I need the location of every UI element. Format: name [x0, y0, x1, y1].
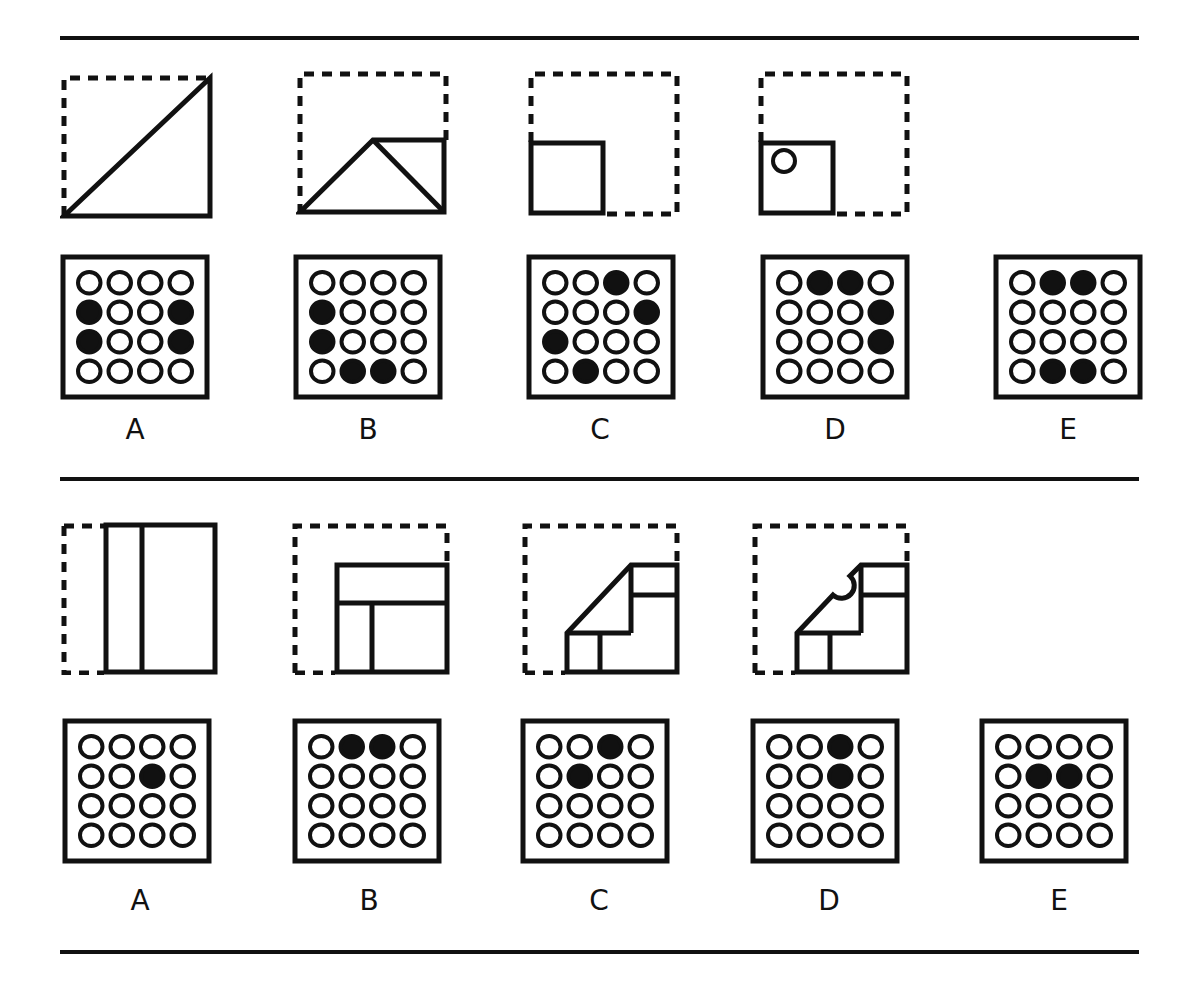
hole-empty-icon: [172, 736, 195, 758]
hole-empty-icon: [768, 795, 791, 817]
hole-filled-icon: [870, 331, 893, 353]
hole-filled-icon: [1072, 361, 1095, 383]
problem-1-option-d-label: D: [805, 413, 865, 446]
hole-empty-icon: [575, 331, 598, 353]
hole-empty-icon: [575, 272, 598, 294]
hole-empty-icon: [630, 736, 653, 758]
hole-empty-icon: [371, 766, 394, 788]
hole-empty-icon: [141, 795, 164, 817]
hole-empty-icon: [342, 302, 365, 324]
hole-empty-icon: [997, 825, 1020, 847]
problem-1-fold-step-1: [60, 72, 215, 220]
problem-2-fold-step-2: [291, 520, 451, 675]
hole-empty-icon: [839, 302, 862, 324]
hole-empty-icon: [809, 331, 832, 353]
hole-empty-icon: [1089, 736, 1112, 758]
problem-1-option-c[interactable]: [526, 254, 676, 400]
problem-2-option-b[interactable]: [292, 718, 442, 864]
problem-2-option-c[interactable]: [520, 718, 670, 864]
hole-empty-icon: [109, 361, 132, 383]
hole-filled-icon: [1042, 361, 1065, 383]
hole-filled-icon: [1042, 272, 1065, 294]
problem-1-option-d[interactable]: [760, 254, 910, 400]
hole-empty-icon: [139, 361, 162, 383]
hole-empty-icon: [109, 302, 132, 324]
hole-empty-icon: [860, 736, 883, 758]
hole-filled-icon: [78, 331, 101, 353]
hole-filled-icon: [78, 302, 101, 324]
hole-empty-icon: [1011, 302, 1034, 324]
hole-empty-icon: [997, 736, 1020, 758]
hole-empty-icon: [538, 766, 561, 788]
hole-empty-icon: [172, 795, 195, 817]
hole-empty-icon: [80, 766, 103, 788]
hole-empty-icon: [860, 795, 883, 817]
hole-empty-icon: [403, 331, 426, 353]
hole-filled-icon: [1058, 766, 1081, 788]
problem-1-option-b[interactable]: [293, 254, 443, 400]
hole-empty-icon: [80, 825, 103, 847]
hole-filled-icon: [342, 361, 365, 383]
hole-empty-icon: [1011, 331, 1034, 353]
hole-empty-icon: [605, 302, 628, 324]
hole-filled-icon: [544, 331, 567, 353]
hole-empty-icon: [538, 795, 561, 817]
hole-empty-icon: [768, 825, 791, 847]
hole-empty-icon: [1058, 795, 1081, 817]
hole-filled-icon: [829, 766, 852, 788]
hole-empty-icon: [170, 272, 193, 294]
hole-empty-icon: [310, 736, 333, 758]
hole-filled-icon: [311, 302, 334, 324]
hole-empty-icon: [109, 272, 132, 294]
hole-empty-icon: [1103, 361, 1126, 383]
hole-filled-icon: [341, 736, 364, 758]
problem-2-option-d-label: D: [799, 884, 859, 917]
hole-empty-icon: [402, 736, 425, 758]
hole-empty-icon: [538, 825, 561, 847]
problem-1-fold-step-4: [757, 70, 912, 218]
hole-empty-icon: [371, 825, 394, 847]
hole-empty-icon: [111, 825, 134, 847]
hole-empty-icon: [1072, 302, 1095, 324]
hole-filled-icon: [141, 766, 164, 788]
hole-empty-icon: [310, 825, 333, 847]
hole-empty-icon: [605, 361, 628, 383]
hole-empty-icon: [311, 272, 334, 294]
hole-empty-icon: [1103, 331, 1126, 353]
hole-empty-icon: [538, 736, 561, 758]
hole-filled-icon: [1072, 272, 1095, 294]
hole-filled-icon: [599, 736, 622, 758]
problem-2-option-e[interactable]: [979, 718, 1129, 864]
hole-empty-icon: [1028, 736, 1051, 758]
problem-1-fold-step-2: [296, 70, 451, 218]
hole-empty-icon: [1103, 302, 1126, 324]
hole-empty-icon: [799, 766, 822, 788]
hole-empty-icon: [630, 766, 653, 788]
problem-1-option-e[interactable]: [993, 254, 1143, 400]
hole-empty-icon: [544, 361, 567, 383]
hole-empty-icon: [799, 736, 822, 758]
hole-empty-icon: [1089, 795, 1112, 817]
problem-2-option-d[interactable]: [750, 718, 900, 864]
hole-filled-icon: [605, 272, 628, 294]
problem-1-option-a[interactable]: [60, 254, 210, 400]
problem-2-option-c-label: C: [569, 884, 629, 917]
hole-empty-icon: [997, 795, 1020, 817]
hole-empty-icon: [402, 825, 425, 847]
problem-2-fold-step-3: [521, 520, 681, 675]
hole-empty-icon: [111, 766, 134, 788]
hole-empty-icon: [371, 795, 394, 817]
hole-empty-icon: [78, 361, 101, 383]
hole-empty-icon: [768, 766, 791, 788]
hole-empty-icon: [139, 272, 162, 294]
hole-filled-icon: [870, 302, 893, 324]
hole-empty-icon: [768, 736, 791, 758]
hole-empty-icon: [870, 361, 893, 383]
hole-empty-icon: [599, 795, 622, 817]
problem-2-option-e-label: E: [1029, 884, 1089, 917]
problem-2-option-a[interactable]: [62, 718, 212, 864]
hole-filled-icon: [1028, 766, 1051, 788]
hole-filled-icon: [636, 302, 659, 324]
hole-empty-icon: [544, 272, 567, 294]
hole-empty-icon: [809, 361, 832, 383]
